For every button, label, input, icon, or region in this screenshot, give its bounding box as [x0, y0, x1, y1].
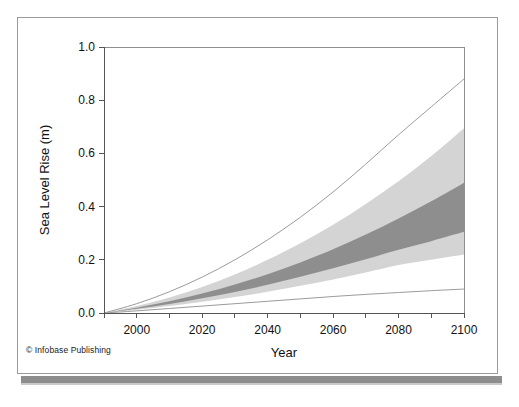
y-axis-ticks: [99, 47, 104, 313]
y-tick-label-0.6: 0.6: [78, 146, 95, 160]
x-axis-ticks: [104, 313, 464, 318]
y-tick-label-1.0: 1.0: [78, 40, 95, 54]
x-axis-tick-labels: 200020202040206020802100: [123, 323, 477, 337]
figure-container: 0.00.20.40.60.81.0 200020202040206020802…: [0, 0, 519, 407]
x-tick-label-2020: 2020: [189, 323, 216, 337]
y-tick-label-0.0: 0.0: [78, 306, 95, 320]
y-tick-label-0.2: 0.2: [78, 253, 95, 267]
x-tick-label-2060: 2060: [320, 323, 347, 337]
x-tick-label-2040: 2040: [254, 323, 281, 337]
y-tick-label-0.8: 0.8: [78, 93, 95, 107]
y-axis-tick-labels: 0.00.20.40.60.81.0: [78, 40, 95, 320]
y-tick-label-0.4: 0.4: [78, 200, 95, 214]
publisher-credit: © Infobase Publishing: [26, 345, 111, 355]
x-axis-title: Year: [271, 345, 298, 360]
x-tick-label-2080: 2080: [385, 323, 412, 337]
x-tick-label-2000: 2000: [123, 323, 150, 337]
y-axis-title: Sea Level Rise (m): [37, 125, 52, 236]
chart-bands: [104, 128, 464, 313]
x-tick-label-2100: 2100: [451, 323, 478, 337]
